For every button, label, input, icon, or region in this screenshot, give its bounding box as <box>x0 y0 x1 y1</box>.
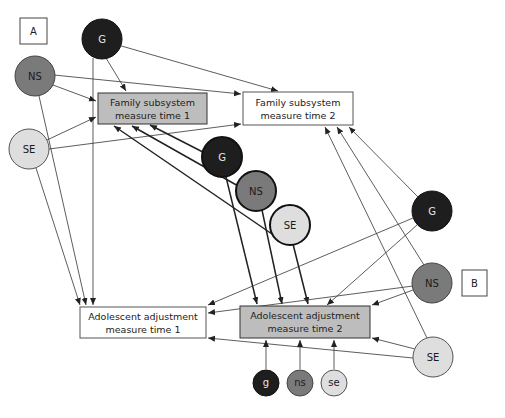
node-g-top: G <box>82 19 122 59</box>
box-family-t1-line1: Family subsystem <box>110 97 195 108</box>
box-adol-t1-line2: measure time 1 <box>106 324 181 335</box>
svg-text:NS: NS <box>28 71 42 82</box>
box-adol-t2: Adolescent adjustment measure time 2 <box>240 306 370 338</box>
node-se-mid: SE <box>270 205 310 245</box>
node-ns-right: NS <box>412 263 452 303</box>
node-ns-mid: NS <box>236 171 276 211</box>
svg-text:G: G <box>218 152 226 163</box>
svg-text:NS: NS <box>249 186 263 197</box>
box-family-t2: Family subsystem measure time 2 <box>243 92 353 125</box>
box-adol-t2-line1: Adolescent adjustment <box>250 310 360 321</box>
panel-label-a: A <box>20 18 47 44</box>
node-se-left: SE <box>9 129 49 169</box>
svg-text:SE: SE <box>23 144 36 155</box>
box-family-t2-line2: measure time 2 <box>261 110 336 121</box>
node-se-small: se <box>321 370 347 396</box>
svg-text:SE: SE <box>284 220 297 231</box>
svg-text:ns: ns <box>294 377 306 388</box>
box-family-t1: Family subsystem measure time 1 <box>98 93 207 124</box>
svg-text:g: g <box>263 377 269 388</box>
svg-text:G: G <box>98 34 106 45</box>
panel-label-b: B <box>462 270 487 296</box>
svg-text:NS: NS <box>425 278 439 289</box>
node-se-right: SE <box>413 337 453 377</box>
node-ns-small: ns <box>287 370 313 396</box>
box-adol-t2-line2: measure time 2 <box>268 323 343 334</box>
svg-text:A: A <box>30 26 37 37</box>
node-g-right: G <box>412 191 452 231</box>
box-adol-t1: Adolescent adjustment measure time 1 <box>80 307 206 338</box>
svg-text:G: G <box>428 206 436 217</box>
node-g-mid: G <box>202 137 242 177</box>
edges-panel-a <box>36 45 278 305</box>
box-family-t1-line2: measure time 1 <box>115 110 190 121</box>
node-ns-left: NS <box>15 56 55 96</box>
svg-text:B: B <box>471 278 478 289</box>
svg-text:se: se <box>328 377 339 388</box>
node-g-small: g <box>253 370 279 396</box>
box-adol-t1-line1: Adolescent adjustment <box>88 311 198 322</box>
diagram-canvas: Family subsystem measure time 1 Family s… <box>0 0 505 418</box>
box-family-t2-line1: Family subsystem <box>256 97 341 108</box>
svg-text:SE: SE <box>427 352 440 363</box>
